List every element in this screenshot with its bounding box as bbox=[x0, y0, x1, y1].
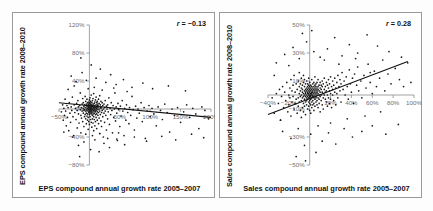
svg-text:120%: 120% bbox=[69, 21, 85, 28]
figure-root: EPS compound annual growth rate 2008–201… bbox=[0, 0, 433, 211]
svg-text:60%: 60% bbox=[366, 99, 379, 106]
svg-text:40%: 40% bbox=[72, 77, 85, 84]
sales-plot-area: −40%−20%20%40%60%80%100%−50%−30%−10%10%3… bbox=[236, 17, 422, 181]
eps-y-axis-title: EPS compound annual growth rate 2008–201… bbox=[15, 13, 29, 199]
svg-text:50%: 50% bbox=[114, 113, 127, 120]
eps-x-axis-title: EPS compound annual growth rate 2005–200… bbox=[27, 182, 212, 195]
svg-text:−40%: −40% bbox=[68, 133, 84, 140]
svg-text:−80%: −80% bbox=[68, 161, 84, 168]
sales-y-axis-title-wrap: Sales compound annual growth rate 2008–2… bbox=[222, 13, 236, 199]
svg-text:40%: 40% bbox=[345, 99, 358, 106]
svg-text:−50%: −50% bbox=[51, 113, 67, 120]
svg-text:30%: 30% bbox=[292, 49, 305, 56]
chart-panel-eps: EPS compound annual growth rate 2008–201… bbox=[12, 12, 215, 198]
svg-text:80%: 80% bbox=[72, 49, 85, 56]
chart-panel-sales: Sales compound annual growth rate 2008–2… bbox=[219, 12, 422, 198]
svg-text:80%: 80% bbox=[387, 99, 400, 106]
svg-text:−40%: −40% bbox=[260, 99, 276, 106]
sales-scatter-svg: −40%−20%20%40%60%80%100%−50%−30%−10%10%3… bbox=[236, 17, 422, 181]
svg-text:100%: 100% bbox=[406, 99, 422, 106]
eps-scatter-svg: −50%50%100%150%200%−80%−40%0%40%80%120% bbox=[29, 17, 215, 181]
svg-text:−50%: −50% bbox=[289, 161, 305, 168]
sales-y-axis-title: Sales compound annual growth rate 2008–2… bbox=[222, 13, 236, 199]
eps-y-axis-title-wrap: EPS compound annual growth rate 2008–201… bbox=[15, 13, 29, 199]
sales-x-axis-title: Sales compound annual growth rate 2005–2… bbox=[234, 182, 419, 195]
svg-text:50%: 50% bbox=[292, 21, 305, 28]
eps-plot-area: −50%50%100%150%200%−80%−40%0%40%80%120% bbox=[29, 17, 215, 181]
